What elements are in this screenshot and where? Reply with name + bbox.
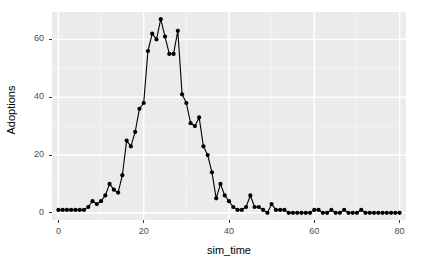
y-tick-label-60: 60: [18, 33, 44, 43]
data-point: [334, 211, 338, 215]
data-point: [163, 34, 167, 38]
data-point: [167, 52, 171, 56]
plot-area: [52, 12, 406, 220]
data-point: [372, 211, 376, 215]
data-point: [304, 211, 308, 215]
data-point: [210, 170, 214, 174]
data-point: [159, 17, 163, 21]
data-point: [270, 202, 274, 206]
data-point: [180, 92, 184, 96]
y-tick-mark-40: [49, 97, 52, 98]
data-point: [325, 211, 329, 215]
x-tick-mark-60: [314, 220, 315, 223]
x-tick-mark-20: [143, 220, 144, 223]
y-tick-label-40: 40: [18, 91, 44, 101]
y-tick-mark-60: [49, 39, 52, 40]
data-point: [65, 208, 69, 212]
data-point: [73, 208, 77, 212]
data-point: [107, 182, 111, 186]
data-point: [150, 32, 154, 36]
x-tick-label-80: 80: [385, 226, 415, 236]
data-point: [385, 211, 389, 215]
data-point: [193, 124, 197, 128]
data-point: [116, 190, 120, 194]
data-point: [95, 202, 99, 206]
x-tick-label-40: 40: [214, 226, 244, 236]
data-point: [252, 205, 256, 209]
x-tick-label-20: 20: [129, 226, 159, 236]
data-point: [355, 211, 359, 215]
data-point: [86, 205, 90, 209]
data-point: [99, 199, 103, 203]
data-point: [287, 211, 291, 215]
data-point: [380, 211, 384, 215]
data-point: [171, 52, 175, 56]
data-point: [240, 208, 244, 212]
data-point: [312, 208, 316, 212]
data-point: [321, 211, 325, 215]
data-point: [398, 211, 402, 215]
grid-major-lines: [52, 12, 406, 220]
data-point: [176, 29, 180, 33]
x-tick-label-0: 0: [43, 226, 73, 236]
data-point: [316, 208, 320, 212]
data-point: [129, 144, 133, 148]
data-point: [218, 182, 222, 186]
data-point: [244, 205, 248, 209]
data-point: [184, 101, 188, 105]
x-tick-mark-0: [58, 220, 59, 223]
data-point: [223, 193, 227, 197]
data-point: [103, 193, 107, 197]
y-tick-mark-0: [49, 212, 52, 213]
x-tick-mark-80: [399, 220, 400, 223]
data-point: [338, 211, 342, 215]
data-point: [393, 211, 397, 215]
data-point: [201, 144, 205, 148]
data-point: [137, 107, 141, 111]
y-axis-title: Adoptions: [5, 55, 17, 165]
data-point: [257, 205, 261, 209]
data-point: [120, 173, 124, 177]
y-tick-label-0: 0: [18, 207, 44, 217]
data-point: [308, 211, 312, 215]
data-point: [291, 211, 295, 215]
data-point: [278, 208, 282, 212]
data-point: [214, 196, 218, 200]
plot-panel: [52, 12, 406, 220]
data-point: [69, 208, 73, 212]
data-point: [61, 208, 65, 212]
data-point: [282, 208, 286, 212]
data-point: [231, 205, 235, 209]
data-point: [197, 115, 201, 119]
data-point: [368, 211, 372, 215]
data-point: [359, 208, 363, 212]
data-point: [295, 211, 299, 215]
data-point: [274, 208, 278, 212]
data-point: [154, 37, 158, 41]
x-axis-title: sim_time: [52, 244, 406, 256]
data-point: [351, 211, 355, 215]
data-point: [248, 193, 252, 197]
data-point: [299, 211, 303, 215]
data-point: [235, 208, 239, 212]
data-point: [189, 121, 193, 125]
data-point: [56, 208, 60, 212]
y-tick-mark-20: [49, 155, 52, 156]
data-point: [90, 199, 94, 203]
data-point: [82, 208, 86, 212]
data-point: [261, 208, 265, 212]
y-tick-label-20: 20: [18, 149, 44, 159]
chart-figure: 0 20 40 60 0 20 40 60 80 sim_time Adopti…: [0, 0, 423, 270]
x-tick-label-60: 60: [299, 226, 329, 236]
data-point: [133, 130, 137, 134]
data-point: [125, 138, 129, 142]
data-point: [363, 211, 367, 215]
data-point: [389, 211, 393, 215]
data-point: [346, 211, 350, 215]
data-point: [376, 211, 380, 215]
data-point: [206, 153, 210, 157]
data-point: [142, 101, 146, 105]
data-point: [265, 211, 269, 215]
data-point: [329, 208, 333, 212]
data-point: [146, 49, 150, 53]
